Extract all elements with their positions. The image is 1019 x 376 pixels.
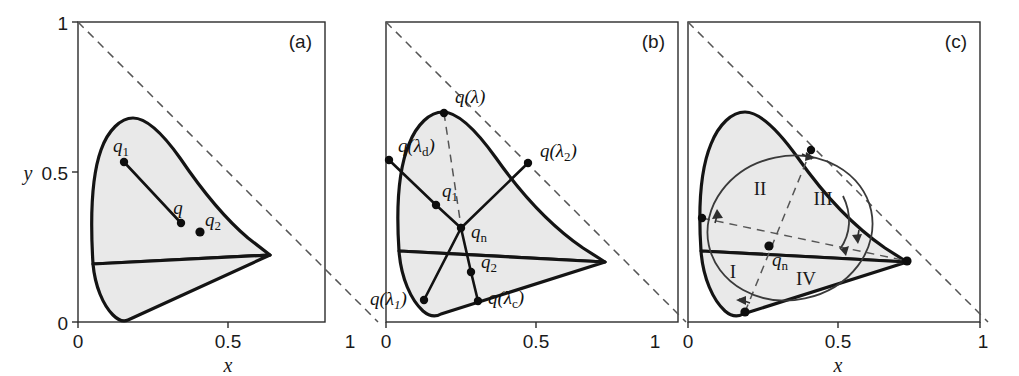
panel-a-point-q1 xyxy=(120,158,128,166)
panel-b: q(λ) q(λd) q(λ2) q1 qn q2 q(λ1) q(λc) (b… xyxy=(345,22,686,352)
panel-c-x-axis-title: x xyxy=(833,354,843,376)
panel-b-label-qlambda-c: q(λc) xyxy=(488,287,524,311)
chromaticity-figure: q1 q q2 (a) 1 0.5 0 y 0 0.5 x xyxy=(0,0,1019,376)
panel-a-label-q: q xyxy=(173,197,183,218)
panel-a-point-q2 xyxy=(195,227,204,236)
panel-a-ylabel-half: 0.5 xyxy=(42,163,68,184)
panel-a-xlabel-half: 0.5 xyxy=(215,331,241,352)
panel-b-xlabel-1: 1 xyxy=(650,331,661,352)
panel-b-point-qlambda-2 xyxy=(524,159,532,167)
panel-c-region-II: II xyxy=(754,178,767,199)
panel-c-locus-point-right xyxy=(902,256,911,265)
panel-c-xlabel-1: 1 xyxy=(978,331,989,352)
panel-b-point-qlambda xyxy=(440,109,448,117)
panel-c-xlabel-half: 0.5 xyxy=(825,331,851,352)
panel-a-xlabel-1: 1 xyxy=(345,331,356,352)
panel-a-point-q xyxy=(177,219,185,227)
panel-c-region-III: III xyxy=(814,188,833,209)
panel-a-ylabel-0: 0 xyxy=(57,313,68,334)
panel-b-xlabel-half: 0.5 xyxy=(523,331,549,352)
panel-c-xlabel-0: 0 xyxy=(683,331,694,352)
panel-a-spectral-locus-lower xyxy=(93,255,270,321)
panel-a-xlabel-0: 0 xyxy=(73,331,84,352)
panel-c-region-I: I xyxy=(730,261,736,282)
panel-c: qn I II III IV (c) 1 0 0.5 1 x xyxy=(650,22,989,376)
panel-c-locus-point-top xyxy=(807,146,815,154)
panel-c-tag: (c) xyxy=(945,31,967,52)
panel-b-label-qlambda: q(λ) xyxy=(455,86,485,108)
panel-b-label-qlambda-1: q(λ1) xyxy=(370,288,407,312)
panel-b-xlabel-0: 0 xyxy=(381,331,392,352)
panel-a-tag: (a) xyxy=(289,31,312,52)
panel-b-point-qn xyxy=(457,224,465,232)
panel-a: q1 q q2 (a) 1 0.5 0 y 0 0.5 x xyxy=(22,13,378,376)
panel-a-ylabel-1: 1 xyxy=(57,13,68,34)
panel-c-region-IV: IV xyxy=(796,268,816,289)
panel-a-y-axis-title: y xyxy=(22,162,33,185)
panel-b-point-q2 xyxy=(467,268,475,276)
panel-b-point-qlambda-c xyxy=(474,297,482,305)
panel-b-point-qlambda-1 xyxy=(420,296,428,304)
panel-b-point-qlambda-d xyxy=(385,156,393,164)
panel-c-locus-point-left xyxy=(698,214,706,222)
panel-b-label-qlambda-d: q(λd) xyxy=(398,135,435,159)
panel-a-x-axis-title: x xyxy=(223,354,233,376)
figure-svg: q1 q q2 (a) 1 0.5 0 y 0 0.5 x xyxy=(0,0,1019,376)
panel-b-point-q1 xyxy=(432,201,440,209)
panel-b-tag: (b) xyxy=(642,31,665,52)
panel-b-label-qlambda-2: q(λ2) xyxy=(540,140,577,164)
panel-c-locus-point-bottom xyxy=(740,307,749,316)
